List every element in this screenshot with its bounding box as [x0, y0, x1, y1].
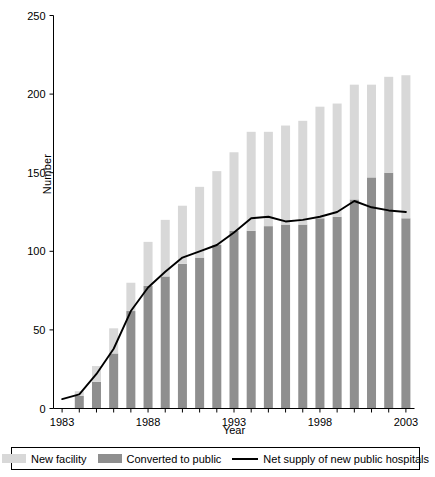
bar-newfacility-1994: [247, 132, 256, 231]
bar-converted-1986: [109, 353, 118, 408]
bar-converted-1985: [92, 382, 101, 409]
bar-converted-1999: [333, 217, 342, 409]
bar-newfacility-1992: [212, 171, 221, 245]
y-tick-label-250: 250: [27, 10, 45, 22]
legend-label-converted-to-public: Converted to public: [127, 453, 222, 465]
x-tick-label-1988: 1988: [136, 416, 160, 428]
plot-area: 05010015020025019831988199319982003: [0, 0, 435, 445]
bar-newfacility-2002: [384, 77, 393, 173]
bar-newfacility-1997: [298, 121, 307, 225]
y-tick-label-50: 50: [33, 324, 45, 336]
bar-newfacility-1988: [144, 242, 153, 286]
line-black-icon: [232, 458, 258, 460]
bar-converted-1989: [161, 276, 170, 408]
x-tick-label-1998: 1998: [308, 416, 332, 428]
x-tick-label-2003: 2003: [394, 416, 418, 428]
legend-label-net-supply: Net supply of new public hospitals: [263, 453, 429, 465]
legend-item-converted-to-public: Converted to public: [98, 453, 222, 465]
y-tick-label-150: 150: [27, 167, 45, 179]
legend-item-net-supply: Net supply of new public hospitals: [232, 453, 429, 465]
bar-newfacility-1996: [281, 126, 290, 225]
bar-converted-1993: [230, 231, 239, 409]
bar-converted-1991: [195, 258, 204, 409]
bar-converted-2003: [401, 218, 410, 408]
bar-converted-1984: [75, 396, 84, 409]
bar-newfacility-1991: [195, 187, 204, 258]
bar-converted-2000: [350, 199, 359, 408]
bar-converted-2001: [367, 177, 376, 408]
y-tick-label-100: 100: [27, 245, 45, 257]
bar-newfacility-1993: [230, 152, 239, 231]
bar-converted-2002: [384, 173, 393, 409]
bar-converted-1994: [247, 231, 256, 409]
bar-newfacility-2000: [350, 85, 359, 200]
bar-newfacility-1990: [178, 206, 187, 264]
y-tick-label-200: 200: [27, 88, 45, 100]
bar-newfacility-2003: [401, 75, 410, 218]
bar-newfacility-1995: [264, 132, 273, 226]
swatch-dark-icon: [98, 454, 122, 463]
bar-converted-1990: [178, 264, 187, 409]
chart-legend: New facility Converted to public Net sup…: [11, 447, 420, 470]
swatch-light-icon: [2, 454, 26, 463]
y-tick-label-0: 0: [39, 403, 45, 415]
bar-converted-1995: [264, 226, 273, 408]
bar-converted-1988: [144, 286, 153, 409]
legend-label-new-facility: New facility: [31, 453, 87, 465]
bar-newfacility-1998: [315, 107, 324, 219]
bar-newfacility-2001: [367, 85, 376, 178]
x-tick-label-1983: 1983: [50, 416, 74, 428]
legend-item-new-facility: New facility: [2, 453, 87, 465]
bar-converted-1998: [315, 218, 324, 408]
bar-converted-1996: [281, 225, 290, 409]
bar-converted-1992: [212, 245, 221, 408]
x-tick-label-1993: 1993: [222, 416, 246, 428]
bar-converted-1997: [298, 225, 307, 409]
chart-figure: Number Year 0501001502002501983198819931…: [0, 0, 435, 477]
bar-converted-1987: [126, 311, 135, 408]
bar-newfacility-1999: [333, 104, 342, 217]
